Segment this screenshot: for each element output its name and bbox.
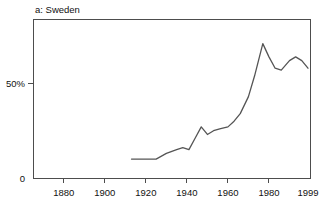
x-tick-label: 1880 <box>53 187 74 198</box>
y-tick-label: 0 <box>20 173 25 184</box>
x-tick-label: 1920 <box>135 187 156 198</box>
x-axis-ticks <box>64 178 269 183</box>
x-tick-label: 1940 <box>176 187 197 198</box>
chart-figure: a: Sweden 050% 1880190019201940196019801… <box>0 0 328 220</box>
plot-frame <box>33 19 310 178</box>
x-tick-label: 1999 <box>297 187 318 198</box>
x-tick-label: 1980 <box>258 187 279 198</box>
x-axis-tick-labels: 1880190019201940196019801999 <box>53 187 318 198</box>
x-tick-label: 1900 <box>94 187 115 198</box>
line-chart: a: Sweden 050% 1880190019201940196019801… <box>0 0 328 220</box>
x-tick-label: 1960 <box>217 187 238 198</box>
y-axis-tick-labels: 050% <box>6 78 26 184</box>
y-tick-label: 50% <box>6 78 26 89</box>
data-series-sweden <box>131 44 307 159</box>
page-title: a: Sweden <box>35 4 80 15</box>
